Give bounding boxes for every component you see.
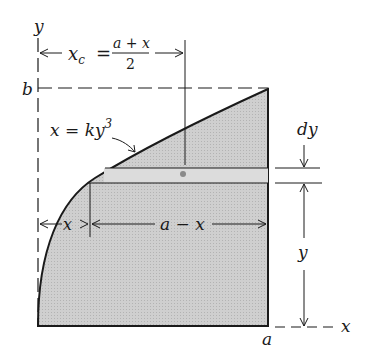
y-axis-label: y [33, 16, 44, 36]
xc-denominator: 2 [126, 56, 135, 72]
differential-strip [104, 168, 268, 183]
xc-symbol: xc [68, 43, 85, 67]
centroid-diagram: y b a x xc = a + x 2 x = ky3 x a − x dy … [0, 0, 372, 359]
xc-numerator: a + x [113, 35, 150, 51]
x-axis-label: x [341, 316, 351, 336]
a-label: a [262, 329, 272, 349]
dy-label: dy [297, 119, 318, 139]
xc-equals: = [96, 43, 111, 64]
curve-equation: x = ky3 [50, 117, 113, 140]
x-dim-label: x [63, 215, 72, 234]
b-label: b [22, 79, 33, 99]
a-minus-x-label: a − x [160, 214, 205, 234]
y-dim-label: y [297, 242, 308, 262]
curve-leader-arrow [112, 138, 135, 152]
centroid-dot [180, 171, 186, 177]
